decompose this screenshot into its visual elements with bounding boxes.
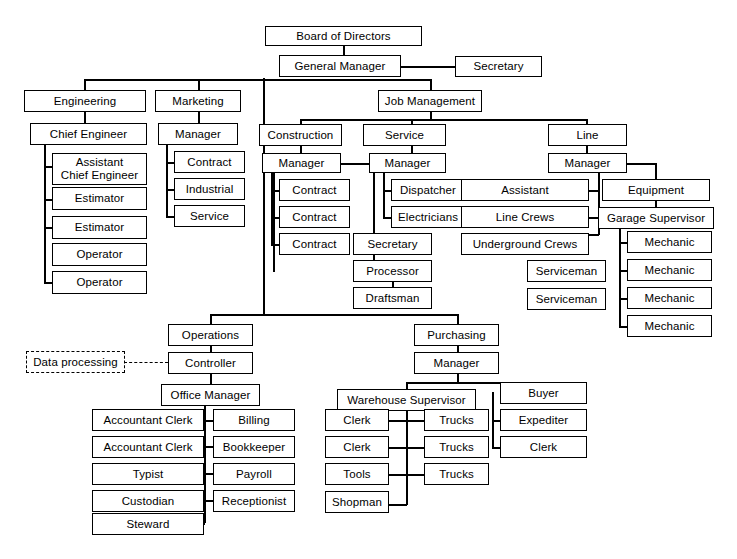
node-operator-2[interactable]: Operator (52, 271, 147, 294)
node-line-crews[interactable]: Line Crews (461, 206, 589, 228)
node-custodian[interactable]: Custodian (92, 490, 204, 512)
node-marketing-manager[interactable]: Manager (158, 123, 238, 145)
node-service[interactable]: Service (363, 124, 446, 146)
node-controller[interactable]: Controller (168, 352, 253, 374)
connector-line-to-underground-crews (589, 234, 599, 236)
node-construction-contract-1[interactable]: Contract (279, 179, 350, 201)
node-line-assistant[interactable]: Assistant (461, 179, 589, 201)
node-engineering[interactable]: Engineering (24, 90, 146, 112)
node-trucks-3[interactable]: Trucks (424, 463, 489, 485)
node-operator-1[interactable]: Operator (52, 243, 147, 266)
node-steward[interactable]: Steward (92, 513, 204, 535)
node-service-manager[interactable]: Manager (369, 153, 446, 173)
node-equipment[interactable]: Equipment (602, 179, 710, 201)
node-accountant-clerk-1[interactable]: Accountant Clerk (92, 409, 204, 431)
node-trucks-1[interactable]: Trucks (424, 409, 489, 431)
node-warehouse-clerk-1[interactable]: Clerk (325, 409, 389, 431)
node-mechanic-4[interactable]: Mechanic (627, 315, 712, 337)
node-estimator-2[interactable]: Estimator (52, 216, 147, 239)
connector-warehouse-spine (406, 410, 408, 505)
node-warehouse-clerk-2[interactable]: Clerk (325, 436, 389, 458)
node-construction-processor[interactable]: Processor (353, 260, 432, 282)
node-general-manager[interactable]: General Manager (279, 55, 401, 77)
connector-warehouse-to-tools (388, 474, 425, 476)
node-marketing-service[interactable]: Service (174, 205, 245, 227)
node-construction-manager[interactable]: Manager (262, 153, 341, 173)
node-mechanic-2[interactable]: Mechanic (627, 259, 712, 281)
node-marketing[interactable]: Marketing (155, 90, 241, 112)
node-billing[interactable]: Billing (213, 409, 295, 431)
connector-lower-bus (210, 314, 458, 316)
connector-gm-to-secretary (400, 66, 456, 68)
node-garage-supervisor[interactable]: Garage Supervisor (598, 207, 714, 229)
node-receptionist[interactable]: Receptionist (213, 490, 295, 512)
node-service-dispatcher[interactable]: Dispatcher (391, 179, 465, 201)
node-underground-crews[interactable]: Underground Crews (461, 233, 589, 255)
connector-warehouse-to-shopman (388, 504, 407, 506)
node-warehouse-shopman[interactable]: Shopman (325, 491, 389, 513)
node-job-management[interactable]: Job Management (378, 90, 482, 112)
connector-top-bus (84, 79, 431, 81)
node-construction-contract-2[interactable]: Contract (279, 206, 350, 228)
node-estimator-1[interactable]: Estimator (52, 187, 147, 210)
node-serviceman-2[interactable]: Serviceman (527, 288, 606, 310)
node-typist[interactable]: Typist (92, 463, 204, 485)
node-assistant-chief-engineer[interactable]: Assistant Chief Engineer (52, 153, 147, 185)
node-construction[interactable]: Construction (259, 124, 342, 146)
node-service-electricians[interactable]: Electricians (391, 206, 465, 228)
node-trucks-2[interactable]: Trucks (424, 436, 489, 458)
node-payroll[interactable]: Payroll (213, 463, 295, 485)
node-line-manager[interactable]: Manager (548, 153, 627, 173)
node-buyer[interactable]: Buyer (500, 382, 587, 404)
node-mechanic-3[interactable]: Mechanic (627, 287, 712, 309)
connector-line-manager-right-arm (626, 163, 656, 165)
connector-warehouse-to-clerk-2 (388, 447, 425, 449)
node-construction-draftsman[interactable]: Draftsman (353, 287, 432, 309)
node-purchasing-clerk[interactable]: Clerk (500, 436, 587, 458)
node-chief-engineer[interactable]: Chief Engineer (30, 123, 147, 145)
node-mechanic-1[interactable]: Mechanic (627, 231, 712, 253)
node-operations[interactable]: Operations (168, 324, 253, 346)
node-construction-contract-3[interactable]: Contract (279, 233, 350, 255)
node-secretary-top[interactable]: Secretary (455, 56, 542, 77)
node-warehouse-supervisor[interactable]: Warehouse Supervisor (337, 389, 476, 411)
connector-secretary-processor-spine (373, 163, 375, 272)
connector-marketing-manager-spine (166, 144, 168, 216)
node-purchasing-manager[interactable]: Manager (414, 352, 499, 374)
node-line[interactable]: Line (548, 124, 627, 146)
node-data-processing[interactable]: Data processing (26, 351, 125, 373)
connector-gm-stem (263, 78, 265, 315)
node-expediter[interactable]: Expediter (500, 409, 587, 431)
node-board-of-directors[interactable]: Board of Directors (265, 26, 422, 46)
node-warehouse-tools[interactable]: Tools (325, 463, 389, 485)
connector-service-manager-spine (383, 172, 385, 218)
node-office-manager[interactable]: Office Manager (161, 384, 260, 406)
connector-construction-right-spine (273, 163, 275, 272)
node-serviceman-1[interactable]: Serviceman (527, 260, 606, 282)
node-purchasing[interactable]: Purchasing (414, 324, 499, 346)
node-construction-secretary[interactable]: Secretary (353, 233, 432, 255)
connector-equipment-drop (655, 163, 657, 180)
connector-warehouse-to-clerk-1 (388, 420, 425, 422)
org-chart-canvas: Board of Directors General Manager Secre… (0, 0, 737, 559)
connector-line-to-assistant (589, 190, 599, 192)
connector-job-management-bus (300, 119, 587, 121)
node-marketing-industrial[interactable]: Industrial (174, 178, 245, 200)
connector-chief-engineer-spine (44, 144, 46, 283)
connector-data-processing-dashed (124, 362, 168, 363)
node-bookkeeper[interactable]: Bookkeeper (213, 436, 295, 458)
node-accountant-clerk-2[interactable]: Accountant Clerk (92, 436, 204, 458)
node-marketing-contract[interactable]: Contract (174, 151, 245, 173)
